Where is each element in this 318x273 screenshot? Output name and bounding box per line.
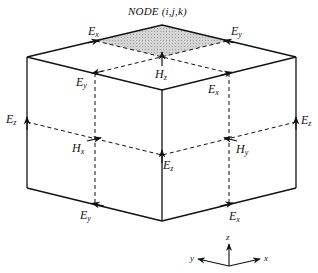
label-bottom-ex: Ex [229, 210, 240, 224]
axis-label-z: z [226, 233, 230, 242]
label-hx: Hx [72, 142, 84, 156]
label-hz: Hz [155, 68, 167, 82]
yee-cell-diagram [0, 0, 318, 273]
label-bottom-ey: Ey [80, 209, 91, 223]
label-center-ez: Ez [163, 159, 173, 173]
label-right-ez: Ez [301, 114, 311, 128]
axis-y-arrow [198, 259, 229, 266]
axis-label-y: y [190, 254, 194, 263]
node-title: NODE (i,j,k) [128, 6, 187, 17]
label-mid-ex: Ex [208, 83, 219, 97]
axis-x-arrow [229, 259, 260, 266]
label-mid-ey: Ey [76, 76, 87, 90]
label-top-ex: Ex [88, 25, 99, 39]
arrow-mid-ey [92, 71, 103, 74]
label-left-ez: Ez [6, 113, 16, 127]
coordinate-axes [198, 244, 260, 266]
axis-label-x: x [264, 254, 268, 263]
label-top-ey: Ey [231, 25, 242, 39]
label-hy: Hy [236, 143, 248, 157]
